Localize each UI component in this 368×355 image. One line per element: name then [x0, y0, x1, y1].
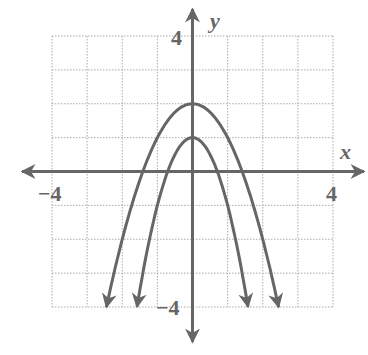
coordinate-plane: [0, 0, 368, 355]
y-max-label: 4: [171, 27, 182, 49]
x-axis-label: x: [340, 141, 351, 163]
y-min-label: −4: [156, 297, 180, 319]
axes: [22, 9, 364, 342]
x-min-label: −4: [38, 183, 62, 205]
x-max-label: 4: [326, 183, 337, 205]
y-axis-label: y: [210, 10, 220, 32]
